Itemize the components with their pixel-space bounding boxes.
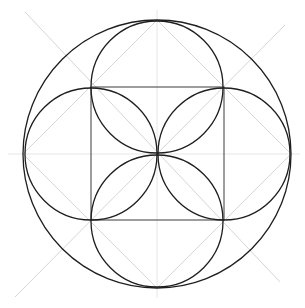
geometric-construction-diagram	[0, 0, 305, 308]
diagonal-guide-line-a	[25, 12, 280, 282]
construction-guides	[8, 10, 300, 298]
